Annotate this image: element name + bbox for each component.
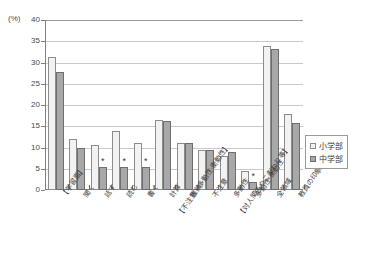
legend-item[interactable]: 中学部 (310, 152, 343, 165)
bar-chuugakubu (56, 72, 64, 190)
chart-legend: 小学部中学部 (305, 135, 348, 169)
y-axis-tick-label: 5 (14, 164, 40, 173)
y-axis-tick-mark (41, 190, 45, 191)
significance-asterisk: * (101, 157, 105, 166)
legend-item[interactable]: 小学部 (310, 139, 343, 152)
bar-shougakubu (155, 120, 163, 190)
bar-shougakubu (134, 143, 142, 190)
bar-group: * (131, 20, 153, 190)
legend-swatch-icon (310, 143, 316, 149)
y-axis-tick-mark (41, 20, 45, 21)
y-axis-tick-mark (41, 169, 45, 170)
bar-group: * (239, 20, 261, 190)
y-axis-tick-mark (41, 84, 45, 85)
y-axis-tick-mark (41, 63, 45, 64)
y-axis-tick-label: 20 (14, 100, 40, 109)
bar-shougakubu (112, 131, 120, 191)
legend-label: 中学部 (319, 153, 343, 164)
bar-group: * (110, 20, 132, 190)
y-axis-tick-label: 25 (14, 79, 40, 88)
bar-group: * (88, 20, 110, 190)
bar-group (153, 20, 175, 190)
bar-shougakubu (177, 143, 185, 190)
bar-group (217, 20, 239, 190)
y-axis-tick-mark (41, 148, 45, 149)
legend-label: 小学部 (319, 140, 343, 151)
bar-chuugakubu (185, 143, 193, 190)
significance-asterisk: * (251, 172, 255, 181)
bar-group (282, 20, 304, 190)
y-axis-tick-mark (41, 41, 45, 42)
bar-chart: (%) **** 【学習面】聞く話す読む書く計算推論不注意多動性多動性-衝動性全… (0, 0, 379, 273)
y-axis-tick-label: 40 (14, 15, 40, 24)
bar-chuugakubu (292, 123, 300, 190)
y-axis-tick-label: 30 (14, 58, 40, 67)
bar-group (45, 20, 67, 190)
bar-group (174, 20, 196, 190)
significance-asterisk: * (144, 157, 148, 166)
y-axis-tick-label: 35 (14, 36, 40, 45)
y-axis-tick-label: 15 (14, 121, 40, 130)
y-axis-tick-mark (41, 105, 45, 106)
y-axis-tick-label: 10 (14, 143, 40, 152)
y-axis-tick-label: 0 (14, 185, 40, 194)
bar-shougakubu (48, 57, 56, 190)
bars-container: **** (45, 20, 303, 190)
significance-asterisk: * (122, 157, 126, 166)
legend-swatch-icon (310, 156, 316, 162)
y-axis-tick-mark (41, 126, 45, 127)
bar-chuugakubu (163, 121, 171, 190)
